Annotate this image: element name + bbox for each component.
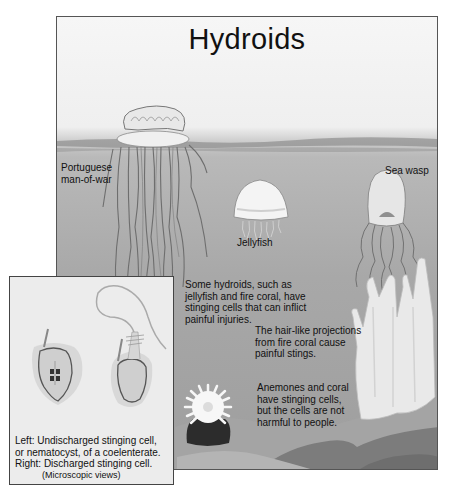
undischarged-cell-icon	[32, 329, 82, 405]
nematocyst-inset: Left: Undischarged stinging cell, or nem…	[9, 276, 174, 485]
sea-wasp-illustration	[356, 170, 420, 293]
inset-caption: Left: Undischarged stinging cell, or nem…	[15, 435, 161, 470]
label-jellyfish: Jellyfish	[237, 237, 273, 249]
note-anemone: Anemones and coral have stinging cells, …	[257, 382, 349, 428]
fire-coral-illustration	[352, 258, 435, 419]
note-hydroids: Some hydroids, such as jellyfish and fir…	[185, 279, 306, 325]
discharged-cell-icon	[97, 286, 167, 407]
inset-subcaption: (Microscopic views)	[42, 470, 121, 480]
anemone-illustration	[185, 385, 231, 446]
label-man-of-war: Portuguese man-of-war	[61, 162, 112, 185]
water-surface	[57, 137, 438, 152]
note-fire-coral: The hair-like projections from fire cora…	[255, 325, 361, 360]
diagram-title: Hydroids	[57, 23, 437, 56]
label-sea-wasp: Sea wasp	[385, 165, 429, 177]
jellyfish-illustration	[234, 180, 288, 241]
